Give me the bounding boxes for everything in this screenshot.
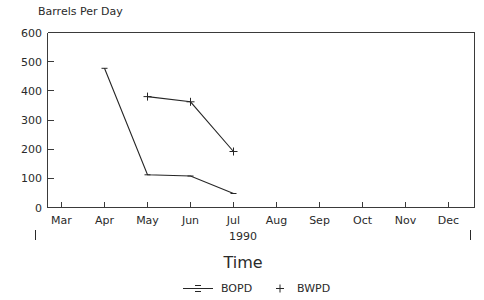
xtick-label-nov: Nov	[395, 214, 417, 227]
x-axis-year-label: 1990	[229, 230, 257, 243]
chart-container: 600 500 400 300 200 100 0 Mar Apr May	[0, 0, 484, 300]
y-axis-labels: 600 500 400 300 200 100 0	[21, 27, 42, 215]
x-axis-ticks	[62, 202, 449, 208]
barrels-per-day-line-chart: 600 500 400 300 200 100 0 Mar Apr May	[0, 0, 484, 300]
xtick-label-dec: Dec	[438, 214, 459, 227]
legend-item-bwpd: BWPD	[276, 282, 330, 295]
series-bwpd-markers	[144, 93, 238, 156]
ytick-label-600: 600	[21, 27, 42, 40]
legend-label-bwpd: BWPD	[297, 282, 330, 295]
xtick-label-apr: Apr	[95, 214, 115, 227]
legend-item-bopd: BOPD	[183, 282, 252, 295]
ytick-label-0: 0	[35, 202, 42, 215]
xtick-label-sep: Sep	[309, 214, 330, 227]
plot-frame	[48, 33, 475, 208]
xtick-label-may: May	[136, 214, 159, 227]
xtick-label-mar: Mar	[51, 214, 72, 227]
chart-title: Barrels Per Day	[38, 5, 123, 18]
xtick-label-jun: Jun	[181, 214, 199, 227]
series-bwpd	[144, 93, 238, 156]
ytick-label-300: 300	[21, 114, 42, 127]
x-axis-title: Time	[222, 253, 262, 272]
legend-label-bopd: BOPD	[221, 282, 252, 295]
xtick-label-aug: Aug	[266, 214, 287, 227]
x-axis-labels: Mar Apr May Jun Jul Aug Sep Oct Nov Dec	[51, 214, 459, 227]
y-axis-ticks	[48, 33, 54, 208]
ytick-label-200: 200	[21, 143, 42, 156]
xtick-label-jul: Jul	[226, 214, 240, 227]
ytick-label-400: 400	[21, 85, 42, 98]
ytick-label-500: 500	[21, 56, 42, 69]
ytick-label-100: 100	[21, 172, 42, 185]
chart-legend: BOPD BWPD	[183, 282, 330, 295]
xtick-label-oct: Oct	[353, 214, 373, 227]
